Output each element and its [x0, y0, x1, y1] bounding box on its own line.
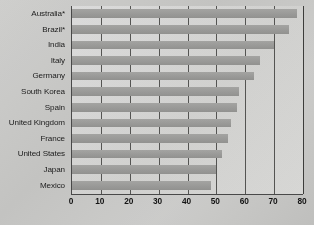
x-tick-label: 80	[297, 196, 306, 206]
bar-row	[72, 6, 303, 22]
category-label: United States	[18, 146, 65, 162]
x-tick-label: 30	[153, 196, 162, 206]
category-label: South Korea	[21, 84, 65, 100]
x-tick-label: 0	[69, 196, 74, 206]
bar-spain	[72, 103, 237, 112]
bar-row	[72, 178, 303, 194]
bar-row	[72, 131, 303, 147]
bar-row	[72, 100, 303, 116]
bar-row	[72, 162, 303, 178]
bar-chart: Australia*Brazil*IndiaItalyGermanySouth …	[0, 0, 314, 225]
bar-italy	[72, 56, 260, 65]
bar-france	[72, 134, 228, 143]
category-label: Brazil*	[42, 22, 65, 38]
category-label: Spain	[45, 100, 65, 116]
bar-germany	[72, 72, 254, 81]
bar-row	[72, 84, 303, 100]
bar-india	[72, 41, 274, 50]
gridline-80	[303, 6, 304, 194]
bar-row	[72, 115, 303, 131]
category-label: United Kingdom	[9, 115, 65, 131]
bar-row	[72, 68, 303, 84]
bar-row	[72, 53, 303, 69]
category-label: France	[40, 131, 65, 147]
x-tick-label: 10	[95, 196, 104, 206]
category-label: India	[48, 37, 65, 53]
category-label: Australia*	[31, 6, 65, 22]
bar-row	[72, 37, 303, 53]
category-axis-labels: Australia*Brazil*IndiaItalyGermanySouth …	[0, 6, 68, 194]
bar-australia	[72, 9, 297, 18]
category-label: Italy	[51, 53, 65, 69]
x-tick-label: 20	[124, 196, 133, 206]
x-tick-label: 40	[182, 196, 191, 206]
x-tick-label: 50	[211, 196, 220, 206]
plot-area	[71, 6, 303, 195]
bar-row	[72, 146, 303, 162]
bar-southkorea	[72, 87, 239, 96]
bar-brazil	[72, 25, 289, 34]
bar-japan	[72, 165, 216, 174]
category-label: Germany	[32, 68, 65, 84]
bar-mexico	[72, 181, 211, 190]
category-label: Mexico	[40, 178, 65, 194]
bar-unitedkingdom	[72, 119, 231, 128]
x-tick-label: 60	[240, 196, 249, 206]
bar-row	[72, 22, 303, 38]
bar-unitedstates	[72, 150, 222, 159]
x-axis-tick-labels: 01020304050607080	[71, 196, 303, 210]
category-label: Japan	[43, 162, 65, 178]
x-tick-label: 70	[269, 196, 278, 206]
